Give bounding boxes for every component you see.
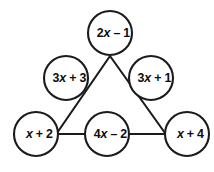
node-top-constant: 1 bbox=[123, 26, 130, 40]
node-bottom-left-variable: x bbox=[25, 127, 34, 141]
triangle-puzzle-canvas: 2x–1 3x+3 3x+1 x+2 bbox=[0, 0, 214, 172]
node-bottom-right-label: x+4 bbox=[139, 127, 214, 141]
node-group: 2x–1 3x+3 3x+1 x+2 bbox=[0, 11, 214, 156]
node-left-middle-variable: x bbox=[58, 71, 67, 85]
node-left-middle-operator: + bbox=[69, 71, 76, 85]
node-top-operator: – bbox=[113, 26, 120, 40]
node-right-middle-constant: 1 bbox=[165, 71, 172, 85]
node-bottom-left-operator: + bbox=[36, 127, 43, 141]
node-bottom-right-variable: x bbox=[176, 127, 185, 141]
node-bottom-middle-variable: x bbox=[100, 127, 109, 141]
node-bottom-middle-operator: – bbox=[110, 127, 117, 141]
node-bottom-right: x+4 bbox=[139, 112, 214, 156]
node-top-label: 2x–1 bbox=[59, 26, 161, 40]
node-top-variable: x bbox=[103, 26, 112, 40]
node-right-middle-label: 3x+1 bbox=[100, 71, 203, 85]
node-bottom-middle-constant: 2 bbox=[120, 127, 127, 141]
node-right-middle-operator: + bbox=[154, 71, 161, 85]
node-bottom-right-constant: 4 bbox=[197, 127, 204, 141]
node-bottom-left-constant: 2 bbox=[46, 127, 53, 141]
node-top: 2x–1 bbox=[59, 11, 161, 55]
node-bottom-right-operator: + bbox=[187, 127, 194, 141]
node-right-middle-variable: x bbox=[143, 71, 152, 85]
node-left-middle-constant: 3 bbox=[80, 71, 87, 85]
triangle-puzzle-figure: 2x–1 3x+3 3x+1 x+2 bbox=[0, 0, 214, 172]
